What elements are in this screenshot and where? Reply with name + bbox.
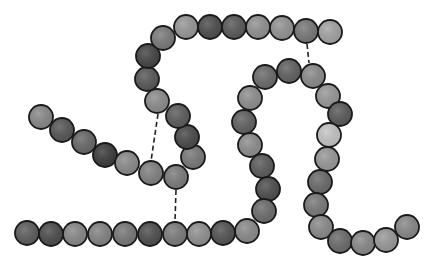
bead-highlight bbox=[247, 16, 269, 38]
bead-highlight bbox=[199, 16, 221, 38]
bead-highlight bbox=[239, 134, 261, 156]
bead-highlight bbox=[316, 148, 338, 170]
right-tail bbox=[304, 84, 419, 255]
bead-highlight bbox=[164, 223, 186, 245]
bead-highlight bbox=[89, 223, 111, 245]
bead-highlight bbox=[295, 20, 317, 42]
bead-highlight bbox=[16, 222, 38, 244]
bead-highlight bbox=[310, 216, 332, 238]
bead-highlight bbox=[212, 222, 234, 244]
disulfide-bond-1 bbox=[307, 44, 309, 63]
bead-highlight bbox=[319, 21, 341, 43]
chain-a bbox=[29, 15, 205, 189]
bead-highlight bbox=[146, 90, 168, 112]
bead-highlight bbox=[139, 223, 161, 245]
bead-highlight bbox=[233, 111, 255, 133]
bead-highlight bbox=[318, 124, 340, 146]
bead-highlight bbox=[73, 131, 95, 153]
disulfide-bond-3 bbox=[175, 190, 176, 221]
bead-highlight bbox=[116, 152, 138, 174]
bead-highlight bbox=[236, 220, 258, 242]
bead-highlight bbox=[396, 216, 418, 238]
bead-highlight bbox=[94, 144, 116, 166]
bead-highlight bbox=[278, 60, 300, 82]
bead-highlight bbox=[152, 27, 174, 49]
loop-chain bbox=[15, 59, 325, 246]
bead-highlight bbox=[140, 162, 162, 184]
bead-highlight bbox=[167, 105, 189, 127]
bead-highlight bbox=[329, 103, 351, 125]
bead-highlight bbox=[114, 223, 136, 245]
bead-highlight bbox=[176, 126, 198, 148]
bead-highlight bbox=[329, 230, 351, 252]
bead-highlight bbox=[257, 178, 279, 200]
bead-highlight bbox=[175, 16, 197, 38]
bead-highlight bbox=[271, 17, 293, 39]
bead-highlight bbox=[165, 166, 187, 188]
bead-highlight bbox=[136, 68, 158, 90]
bead-highlight bbox=[251, 155, 273, 177]
bead-highlight bbox=[64, 223, 86, 245]
disulfide-bond-2 bbox=[151, 114, 158, 161]
bead-highlight bbox=[253, 200, 275, 222]
bead-chain-diagram: Polypeptide chain bead model bbox=[0, 0, 434, 272]
bead-highlight bbox=[30, 106, 52, 128]
bead-highlight bbox=[223, 16, 245, 38]
bead-highlight bbox=[302, 65, 324, 87]
bead-highlight bbox=[352, 232, 374, 254]
bead-highlight bbox=[375, 229, 397, 251]
bead-highlight bbox=[51, 119, 73, 141]
bead-highlight bbox=[188, 223, 210, 245]
bead-highlight bbox=[309, 171, 331, 193]
beads-layer bbox=[15, 15, 419, 255]
bead-highlight bbox=[40, 223, 62, 245]
top-row bbox=[198, 15, 342, 44]
bead-highlight bbox=[254, 66, 276, 88]
diagram-canvas bbox=[0, 0, 434, 272]
bead-highlight bbox=[239, 87, 261, 109]
bead-highlight bbox=[305, 194, 327, 216]
